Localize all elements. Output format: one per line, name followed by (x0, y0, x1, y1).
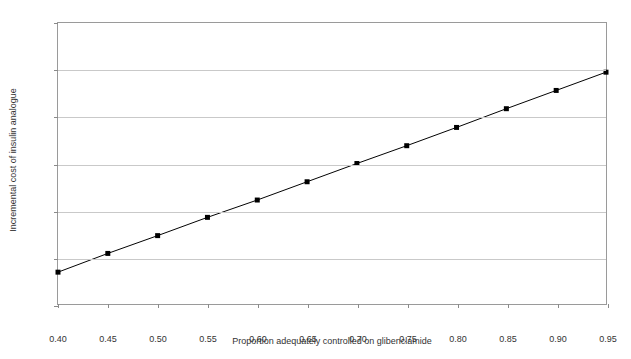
data-point-marker (305, 179, 310, 184)
x-tick-mark (358, 304, 359, 308)
y-tick-mark (54, 165, 58, 166)
y-tick-mark (54, 70, 58, 71)
x-tick-mark (508, 304, 509, 308)
y-tick-mark (54, 117, 58, 118)
y-gridline (58, 212, 606, 213)
plot-area: £30£40£50£60£70£80£900.400.450.500.550.6… (57, 22, 607, 305)
x-tick-mark (458, 304, 459, 308)
x-tick-mark (608, 304, 609, 308)
y-tick-mark (54, 212, 58, 213)
y-gridline (58, 117, 606, 118)
y-gridline (58, 70, 606, 71)
y-axis-title: Incremental cost of insulin analogue (6, 10, 20, 310)
data-series-line (58, 23, 606, 304)
y-gridline (58, 259, 606, 260)
x-tick-mark (158, 304, 159, 308)
x-tick-mark (108, 304, 109, 308)
data-point-marker (56, 270, 61, 275)
y-tick-mark (54, 259, 58, 260)
data-point-marker (554, 88, 559, 93)
data-point-marker (255, 198, 260, 203)
data-point-marker (404, 143, 409, 148)
y-tick-mark (54, 23, 58, 24)
x-tick-mark (558, 304, 559, 308)
y-gridline (58, 165, 606, 166)
x-tick-mark (58, 304, 59, 308)
chart-container: Incremental cost of insulin analogue £30… (0, 0, 631, 359)
x-tick-mark (308, 304, 309, 308)
series-polyline (58, 72, 606, 272)
x-tick-mark (408, 304, 409, 308)
data-point-marker (454, 125, 459, 130)
x-tick-mark (208, 304, 209, 308)
data-point-marker (205, 215, 210, 220)
data-point-marker (105, 251, 110, 256)
x-axis-title: Proportion adequately controlled on glib… (57, 336, 607, 346)
data-point-marker (504, 106, 509, 111)
data-point-marker (155, 233, 160, 238)
x-tick-mark (258, 304, 259, 308)
